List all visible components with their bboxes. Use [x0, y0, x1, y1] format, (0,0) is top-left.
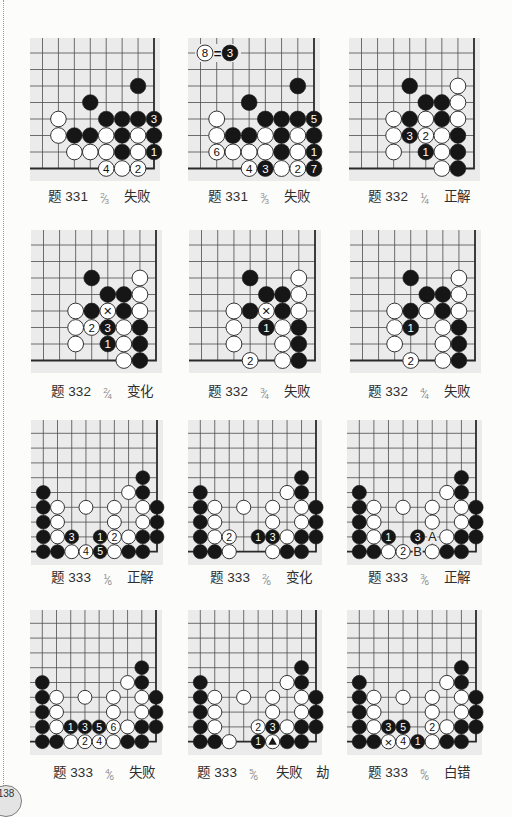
black-stone: [469, 500, 483, 514]
white-stone: 4: [79, 545, 93, 559]
black-stone: [135, 676, 149, 690]
move-number: 8: [202, 47, 208, 59]
white-stone: [208, 705, 222, 719]
black-stone: [274, 144, 290, 160]
black-stone: [36, 486, 50, 500]
diagram-caption: 题 333 1⁄6 正解: [51, 570, 153, 587]
white-stone: [222, 735, 236, 749]
black-stone: [50, 735, 64, 749]
black-stone: [84, 303, 100, 319]
white-stone: 2: [403, 353, 419, 369]
variation-fraction: 3⁄3: [260, 192, 269, 206]
black-stone: [132, 353, 148, 369]
white-stone: [434, 161, 450, 177]
black-stone: [136, 545, 150, 559]
black-stone: 1: [146, 144, 162, 160]
black-stone: 3: [381, 720, 395, 734]
black-stone: [132, 336, 148, 352]
black-stone: [309, 705, 323, 719]
white-stone: [107, 515, 121, 529]
white-stone: [136, 500, 150, 514]
black-stone: 3: [65, 530, 79, 544]
white-stone: [450, 111, 466, 127]
black-stone: [82, 128, 98, 144]
move-number: 1: [263, 322, 269, 334]
black-stone: [149, 690, 163, 704]
variation-fraction: 1⁄6: [103, 573, 112, 587]
black-stone: [146, 128, 162, 144]
move-number: 3: [415, 531, 421, 543]
go-board: 8=35614327: [188, 38, 320, 181]
black-stone: [352, 690, 366, 704]
white-stone: 2: [107, 530, 121, 544]
white-stone: [50, 690, 64, 704]
black-stone: [291, 320, 307, 336]
move-number: 5: [400, 721, 406, 733]
black-stone: [440, 545, 454, 559]
move-number: 1: [97, 531, 103, 543]
white-stone: [51, 515, 65, 529]
diagram-caption: 题 333 6⁄6 白错: [368, 765, 470, 782]
white-stone: 2: [222, 530, 236, 544]
black-stone: [306, 128, 322, 144]
move-number: 6: [214, 146, 220, 158]
move-number: 6: [110, 721, 116, 733]
black-stone: [352, 675, 366, 689]
white-stone: [209, 128, 225, 144]
black-stone: [135, 720, 149, 734]
black-stone: [291, 336, 307, 352]
black-stone: [100, 287, 116, 303]
black-stone: [454, 485, 468, 499]
black-stone: [352, 705, 366, 719]
go-board: 321: [349, 38, 480, 181]
black-stone: [402, 111, 418, 127]
white-stone: [50, 705, 64, 719]
result-label: 失败: [444, 384, 470, 400]
white-stone: [280, 720, 294, 734]
move-number: 3: [407, 130, 413, 142]
black-stone: [274, 128, 290, 144]
black-stone: [290, 111, 306, 127]
black-stone: [294, 530, 308, 544]
white-stone: [290, 144, 306, 160]
move-number: 4: [246, 163, 253, 175]
black-stone: [130, 111, 146, 127]
move-number: 1: [105, 338, 111, 350]
white-stone: [454, 705, 468, 719]
black-stone: [116, 287, 132, 303]
white-stone: [122, 486, 136, 500]
white-stone: [237, 690, 251, 704]
black-stone: [352, 500, 366, 514]
black-stone: [454, 735, 468, 749]
black-stone: [258, 287, 274, 303]
black-stone: [116, 303, 132, 319]
white-stone: [68, 336, 84, 352]
result-label: 失败: [276, 765, 302, 781]
black-stone: [403, 303, 419, 319]
diagram-caption: 题 331 2⁄3 失败: [48, 189, 150, 206]
black-stone: [149, 705, 163, 719]
black-stone: [274, 111, 290, 127]
white-stone: [387, 320, 403, 336]
fraction-denominator: 3: [265, 194, 269, 210]
result-label: 正解: [127, 570, 153, 586]
fraction-denominator: 3: [105, 194, 109, 210]
black-stone: 1: [418, 144, 434, 160]
result-label: 失败: [284, 189, 310, 205]
move-number: 3: [227, 47, 233, 59]
black-stone: [84, 270, 100, 286]
black-stone: [150, 500, 164, 514]
white-stone: [64, 735, 78, 749]
black-stone: [35, 676, 49, 690]
black-stone: [294, 720, 308, 734]
black-stone: 3: [266, 530, 280, 544]
go-board: 135624: [30, 610, 162, 755]
variation-fraction: 2⁄4: [103, 387, 112, 401]
black-stone: [193, 690, 207, 704]
black-stone: 5: [306, 111, 322, 127]
white-stone: [121, 720, 135, 734]
fraction-denominator: 6: [267, 575, 271, 591]
black-stone: [402, 78, 418, 94]
black-stone: [352, 485, 366, 499]
move-number: 1: [415, 735, 421, 747]
